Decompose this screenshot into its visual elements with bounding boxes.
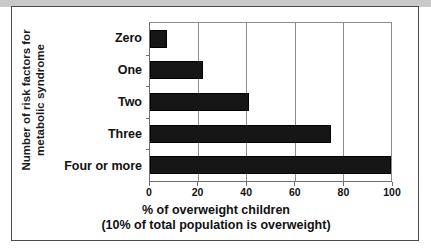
x-axis-tick-label: 60: [289, 186, 301, 198]
bar-slot: [150, 86, 391, 118]
y-axis-title: Number of risk factors for metabolic syn…: [16, 14, 50, 186]
bar-slot: [150, 118, 391, 150]
y-axis-title-line1: Number of risk factors for: [20, 29, 32, 170]
bar: [150, 125, 331, 143]
category-label: One: [48, 54, 146, 86]
bar: [150, 156, 391, 174]
y-axis-title-line2: metabolic syndrome: [33, 29, 47, 170]
x-axis-tick-label: 40: [240, 186, 252, 198]
x-axis-title-line2: (10% of total population is overweight): [20, 218, 412, 233]
bar-slot: [150, 55, 391, 87]
category-label: Two: [48, 86, 146, 118]
category-label: Zero: [48, 22, 146, 54]
category-label: Four or more: [48, 150, 146, 182]
plot-area: [149, 22, 392, 182]
bar-series: [150, 23, 391, 181]
category-axis-labels: ZeroOneTwoThreeFour or more: [48, 22, 146, 182]
x-axis-tick-labels: 020406080100: [149, 186, 392, 200]
category-label: Three: [48, 118, 146, 150]
bar: [150, 93, 249, 111]
x-axis-tick-label: 80: [338, 186, 350, 198]
x-axis-tick-label: 100: [383, 186, 401, 198]
x-axis-tick-label: 20: [192, 186, 204, 198]
bar-slot: [150, 149, 391, 181]
bar: [150, 61, 203, 79]
x-axis-tick-label: 0: [146, 186, 152, 198]
x-axis-title-line1: % of overweight children: [142, 203, 290, 217]
bar-slot: [150, 23, 391, 55]
x-axis-title: % of overweight children (10% of total p…: [20, 203, 412, 233]
bar: [150, 30, 167, 48]
chart-screenshot: Number of risk factors for metabolic syn…: [0, 0, 431, 252]
